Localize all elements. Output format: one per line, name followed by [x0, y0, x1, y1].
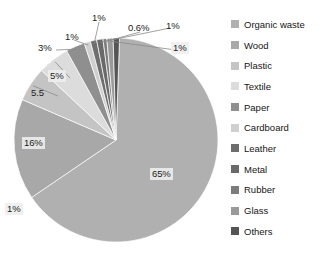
- pie-area: 65% 16% 5.5 5% 3% 1% 1% 1% 0.6% 1% 1%: [0, 0, 231, 254]
- slice-label-metal: 1%: [164, 20, 182, 32]
- slice-label-others: 1%: [5, 203, 23, 215]
- legend-swatch-icon: [231, 207, 239, 215]
- legend-item[interactable]: Plastic: [231, 55, 331, 76]
- legend-item[interactable]: Paper: [231, 97, 331, 118]
- legend-item-label: Plastic: [244, 60, 272, 71]
- legend-item-label: Organic waste: [244, 19, 305, 30]
- legend-swatch-icon: [231, 144, 239, 152]
- pie-svg: [0, 0, 231, 254]
- legend-item-label: Glass: [244, 205, 268, 216]
- legend-item[interactable]: Others: [231, 221, 331, 242]
- legend-item[interactable]: Rubber: [231, 180, 331, 201]
- legend-item-label: Metal: [244, 164, 267, 175]
- legend-item-label: Others: [244, 226, 273, 237]
- slice-label-paper: 3%: [36, 42, 54, 54]
- legend-item[interactable]: Metal: [231, 159, 331, 180]
- legend-swatch-icon: [231, 227, 239, 235]
- legend-swatch-icon: [231, 165, 239, 173]
- legend-item[interactable]: Textile: [231, 76, 331, 97]
- slice-label-textile: 5%: [48, 70, 66, 82]
- slice-label-cardboard: 1%: [63, 31, 81, 43]
- legend-item-label: Textile: [244, 81, 271, 92]
- legend-item-label: Leather: [244, 143, 276, 154]
- legend-item[interactable]: Glass: [231, 200, 331, 221]
- legend-item[interactable]: Cardboard: [231, 117, 331, 138]
- legend-item-label: Rubber: [244, 184, 275, 195]
- slice-label-plastic: 5.5: [29, 87, 46, 99]
- pie-chart: 65% 16% 5.5 5% 3% 1% 1% 1% 0.6% 1% 1% Or…: [0, 0, 331, 254]
- slice-label-rubber: 0.6%: [126, 22, 151, 34]
- legend-item-label: Paper: [244, 102, 269, 113]
- legend-swatch-icon: [231, 20, 239, 28]
- legend-item[interactable]: Leather: [231, 138, 331, 159]
- slice-label-glass: 1%: [171, 42, 189, 54]
- legend-swatch-icon: [231, 186, 239, 194]
- legend-swatch-icon: [231, 103, 239, 111]
- legend-item[interactable]: Wood: [231, 35, 331, 56]
- legend-swatch-icon: [231, 124, 239, 132]
- legend: Organic wasteWoodPlasticTextilePaperCard…: [231, 14, 331, 242]
- legend-item-label: Wood: [244, 40, 269, 51]
- legend-swatch-icon: [231, 82, 239, 90]
- slice-label-organic-waste: 65%: [150, 168, 173, 180]
- legend-item-label: Cardboard: [244, 122, 289, 133]
- legend-item[interactable]: Organic waste: [231, 14, 331, 35]
- slice-label-wood: 16%: [22, 137, 45, 149]
- legend-swatch-icon: [231, 41, 239, 49]
- slice-label-leather: 1%: [90, 12, 108, 24]
- legend-swatch-icon: [231, 62, 239, 70]
